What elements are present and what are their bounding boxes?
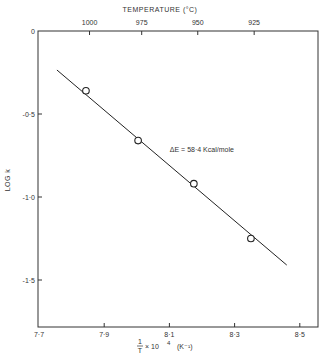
x-label-fraction-numerator: 1 [138,338,142,345]
activation-energy-annotation: ΔE = 58·4 Kcal/mole [170,146,234,153]
y-axis-ticks: 0-0·5-1·0-1·5 [23,28,42,284]
top-axis-ticks: 1000975950925 [82,19,260,35]
top-axis-title: TEMPERATURE (°C) [123,6,198,14]
data-point [191,180,198,187]
y-tick-label: 0 [31,28,35,35]
data-point [83,87,90,94]
x-label-exponent: 4 [167,340,171,346]
y-axis-label: LOG k [4,169,11,192]
top-tick-label: 950 [192,19,204,26]
x-tick-label: 8·3 [230,331,240,338]
top-tick-label: 1000 [82,19,98,26]
x-axis-label: 1 T × 10 4 (K⁻¹) [137,338,193,354]
y-tick-label: -0·5 [23,111,36,118]
x-axis-ticks: 7·77·98·18·38·5 [34,323,305,338]
top-tick-label: 975 [136,19,148,26]
x-label-times: × 10 [145,343,159,350]
data-point [248,235,255,242]
top-tick-label: 925 [248,19,260,26]
x-tick-label: 8·1 [164,331,174,338]
x-tick-label: 8·5 [295,331,305,338]
x-tick-label: 7·9 [99,331,109,338]
plot-frame [38,31,318,327]
x-label-unit: (K⁻¹) [177,343,193,351]
x-label-fraction-denominator: T [138,347,143,354]
x-tick-label: 7·7 [34,331,44,338]
y-tick-label: -1·5 [23,277,36,284]
chart: TEMPERATURE (°C) 1000975950925 7·77·98·1… [0,0,320,361]
y-tick-label: -1·0 [23,194,36,201]
data-point [135,137,142,144]
